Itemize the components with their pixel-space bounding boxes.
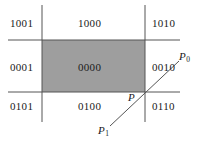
point-label-p1: P1 xyxy=(98,125,108,136)
point-label-p: P xyxy=(128,92,135,103)
point-label-p-base: P xyxy=(128,91,135,103)
region-code-0110: 0110 xyxy=(152,101,175,112)
point-label-p0-subscript: 0 xyxy=(186,55,190,64)
region-code-0001: 0001 xyxy=(10,62,33,73)
region-code-1001: 1001 xyxy=(10,18,33,29)
point-label-p0-base: P xyxy=(179,50,186,62)
region-code-0101: 0101 xyxy=(10,101,33,112)
point-label-p0: P0 xyxy=(179,51,189,62)
region-code-1010: 1010 xyxy=(152,18,175,29)
point-label-p1-subscript: 1 xyxy=(105,129,109,138)
clipping-region-diagram: 1001 1000 1010 0001 0000 0010 0101 0100 … xyxy=(0,0,201,145)
region-code-0000: 0000 xyxy=(78,62,101,73)
region-code-0010: 0010 xyxy=(152,62,175,73)
region-code-1000: 1000 xyxy=(78,18,101,29)
region-code-0100: 0100 xyxy=(78,101,101,112)
point-label-p1-base: P xyxy=(98,124,105,136)
